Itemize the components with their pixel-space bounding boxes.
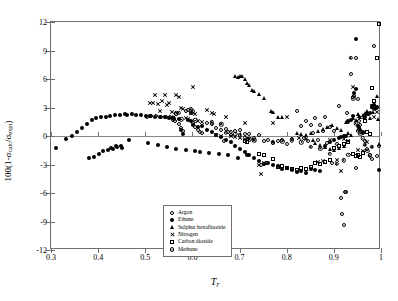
data-point-nitrogen xyxy=(150,101,155,106)
x-tick-mark-inner xyxy=(334,132,335,136)
data-point-argon xyxy=(200,131,204,135)
y-axis-title-prefix: 100(1- xyxy=(3,157,13,181)
data-point-ethane xyxy=(118,113,122,117)
data-point-carbon-dioxide xyxy=(285,166,289,170)
x-tick-mark-inner xyxy=(145,132,146,136)
data-point-argon xyxy=(344,190,348,194)
data-point-methane xyxy=(224,130,228,134)
data-point-ethane xyxy=(179,128,183,132)
data-point-nitrogen xyxy=(351,85,356,90)
data-point-argon xyxy=(325,141,329,145)
data-point-carbon-dioxide xyxy=(328,158,332,162)
data-point-nitrogen xyxy=(247,137,252,142)
data-point-argon xyxy=(189,111,193,115)
data-point-argon xyxy=(222,139,226,143)
data-point-ethane xyxy=(328,140,332,144)
data-point-nitrogen xyxy=(155,101,160,106)
legend-label: Methane xyxy=(178,247,198,253)
data-point-argon xyxy=(328,125,332,129)
data-point-ethane xyxy=(356,124,360,128)
data-point-carbon-dioxide xyxy=(290,167,294,171)
data-point-ethane xyxy=(144,114,148,118)
data-point-methane xyxy=(179,117,183,121)
data-point-carbon-dioxide xyxy=(271,157,275,161)
data-point-argon xyxy=(372,44,376,48)
data-point-sulphur-hexafluoride xyxy=(332,148,336,152)
data-point-argon xyxy=(356,97,360,101)
data-point-ethane xyxy=(224,138,228,142)
data-point-carbon-dioxide xyxy=(295,168,299,172)
data-point-nitrogen xyxy=(205,107,210,112)
data-point-ethane xyxy=(80,126,84,130)
data-point-carbon-dioxide xyxy=(280,164,284,168)
x-tick-label: 0.7 xyxy=(235,253,245,262)
data-point-sulphur-hexafluoride xyxy=(321,127,325,131)
x-tick-label: 0.8 xyxy=(282,253,292,262)
data-point-nitrogen xyxy=(181,106,186,111)
data-point-nitrogen xyxy=(164,103,169,108)
data-point-nitrogen xyxy=(176,94,181,99)
data-point-sulphur-hexafluoride xyxy=(280,115,284,119)
data-point-sulphur-hexafluoride xyxy=(339,128,343,132)
data-point-argon xyxy=(276,139,280,143)
data-point-ethane xyxy=(323,144,327,148)
legend-label: Nitrogen xyxy=(178,232,198,238)
data-point-ethane xyxy=(354,37,358,41)
data-point-ethane xyxy=(75,130,79,134)
data-point-ethane xyxy=(351,114,355,118)
x-tick-label: 0.4 xyxy=(93,253,103,262)
y-tick-label: 0 xyxy=(43,132,47,141)
x-tick-label: 0.5 xyxy=(140,253,150,262)
data-point-argon xyxy=(342,223,346,227)
data-point-ethane xyxy=(119,144,123,148)
y-tick-mark-inner xyxy=(51,22,55,23)
data-point-argon xyxy=(313,116,317,120)
data-point-carbon-dioxide xyxy=(243,139,247,143)
data-point-ethane xyxy=(375,105,379,109)
data-point-sulphur-hexafluoride xyxy=(316,129,320,133)
data-point-carbon-dioxide xyxy=(245,140,249,144)
data-point-ethane xyxy=(304,171,308,175)
data-point-nitrogen xyxy=(160,99,165,104)
x-tick-mark-inner xyxy=(192,132,193,136)
data-point-sulphur-hexafluoride xyxy=(373,106,377,110)
y-tick-label: 6 xyxy=(43,75,47,84)
data-point-ethane xyxy=(111,147,115,151)
y-tick-label: 12 xyxy=(39,18,47,27)
y-tick-mark-inner xyxy=(51,222,55,223)
data-point-argon xyxy=(168,115,172,119)
data-point-sulphur-hexafluoride xyxy=(335,126,339,130)
data-point-argon xyxy=(184,109,188,113)
legend-item-carbon-dioxide: Carbon dioxide xyxy=(168,239,225,246)
data-point-argon xyxy=(245,137,249,141)
data-point-ethane xyxy=(262,162,266,166)
y-axis-title: 100(1-σcalc/σexpt) xyxy=(3,120,14,181)
legend: ArgonEthaneSulphur hexafluorideNitrogenC… xyxy=(163,205,232,257)
x-tick-label: 0.9 xyxy=(329,253,339,262)
data-point-carbon-dioxide xyxy=(276,165,280,169)
data-point-nitrogen xyxy=(374,109,379,114)
data-point-ethane xyxy=(172,117,176,121)
legend-label: Carbon dioxide xyxy=(178,239,213,245)
data-point-ethane xyxy=(363,115,367,119)
data-point-ethane xyxy=(114,144,118,148)
data-point-sulphur-hexafluoride xyxy=(344,120,348,124)
data-point-methane xyxy=(334,162,338,166)
data-point-sulphur-hexafluoride xyxy=(376,117,380,121)
data-point-argon xyxy=(345,111,349,115)
data-point-argon xyxy=(181,129,185,133)
data-point-nitrogen xyxy=(327,138,332,143)
legend-marker-dot-circle-icon xyxy=(168,246,176,253)
data-point-carbon-dioxide xyxy=(356,153,360,157)
data-point-methane xyxy=(191,109,195,113)
data-point-sulphur-hexafluoride xyxy=(252,89,256,93)
data-point-sulphur-hexafluoride xyxy=(356,112,360,116)
data-point-argon xyxy=(295,109,299,113)
legend-marker-open-circle-icon xyxy=(168,209,176,216)
data-point-ethane xyxy=(92,155,96,159)
data-point-argon xyxy=(186,108,190,112)
legend-marker-cross-icon xyxy=(168,231,176,238)
data-point-sulphur-hexafluoride xyxy=(330,123,334,127)
data-point-argon xyxy=(198,130,202,134)
data-point-sulphur-hexafluoride xyxy=(318,143,322,147)
